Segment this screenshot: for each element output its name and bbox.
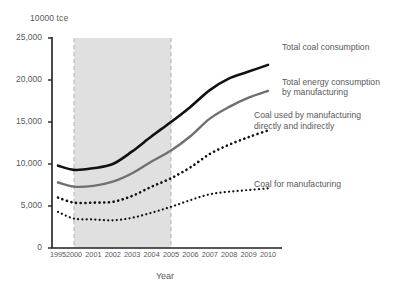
y-axis-tick-label: 20,000 xyxy=(2,74,42,84)
shaded-band xyxy=(74,38,171,248)
footer-faint-text xyxy=(0,288,413,299)
y-axis-tick-label: 5,000 xyxy=(2,200,42,210)
legend-item-3: Coal for manufacturing xyxy=(254,179,341,190)
y-axis-tick-label: 15,000 xyxy=(2,116,42,126)
x-axis-tick-label: 2010 xyxy=(257,250,279,259)
x-axis-title: Year xyxy=(0,271,330,281)
y-axis-tick-label: 0 xyxy=(2,242,42,252)
chart-container: 10000 tce 05,00010,00015,00020,00025,000… xyxy=(0,0,413,299)
legend-item-1: Total energy consumption by manufacturin… xyxy=(282,77,380,98)
legend-item-2: Coal used by manufacturing directly and … xyxy=(254,110,361,131)
y-axis-tick-label: 10,000 xyxy=(2,158,42,168)
legend-item-0: Total coal consumption xyxy=(282,42,369,53)
y-axis-tick-label: 25,000 xyxy=(2,32,42,42)
